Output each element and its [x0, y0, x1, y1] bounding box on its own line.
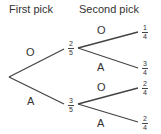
prob-second-1: 1 4: [142, 24, 148, 40]
branch-label-first-o: O: [26, 46, 35, 58]
numerator: 2: [143, 115, 147, 122]
prob-second-2: 3 4: [142, 60, 148, 76]
prob-first-o: 2 5: [68, 40, 74, 56]
prob-second-4: 2 4: [142, 115, 148, 131]
denominator: 4: [143, 33, 147, 40]
prob-first-a: 3 5: [68, 97, 74, 113]
numerator: 3: [69, 97, 73, 104]
denominator: 4: [143, 124, 147, 131]
denominator: 5: [69, 49, 73, 56]
branch-label-second-a-1: A: [97, 61, 104, 73]
branch-label-second-a-2: A: [97, 117, 104, 129]
denominator: 4: [143, 69, 147, 76]
numerator: 2: [143, 80, 147, 87]
denominator: 5: [69, 106, 73, 113]
branch-label-first-a: A: [27, 95, 34, 107]
numerator: 1: [143, 24, 147, 31]
branch-label-second-o-2: O: [97, 81, 106, 93]
branch-label-second-o-1: O: [97, 24, 106, 36]
numerator: 2: [69, 40, 73, 47]
numerator: 3: [143, 60, 147, 67]
tree-branches: [0, 0, 161, 134]
prob-second-3: 2 4: [142, 80, 148, 96]
denominator: 4: [143, 89, 147, 96]
